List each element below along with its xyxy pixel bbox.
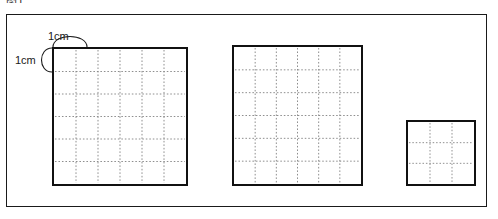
square-large-left [52,47,188,186]
figure-root: 图1 1cm 1cm [0,0,498,219]
square-small-right-grid [408,122,474,184]
dimension-label-top: 1cm [48,30,69,42]
figure-caption-fragment: 图1 [6,0,24,3]
dimension-label-left: 1cm [15,54,36,66]
square-small-right [406,120,476,186]
square-large-left-grid [54,49,186,184]
square-large-middle-grid [234,47,361,184]
square-large-middle [232,45,363,186]
